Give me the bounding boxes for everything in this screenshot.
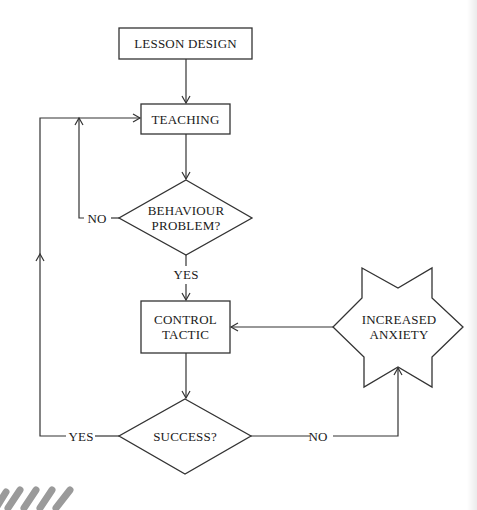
success-label: SUCCESS? xyxy=(153,429,217,444)
edge-success-yes-to-teaching: YES xyxy=(36,114,140,444)
behaviour-no-label: NO xyxy=(87,211,106,226)
page-edge-shadow xyxy=(467,0,477,510)
edge-anxiety-to-control xyxy=(231,323,333,331)
flowchart-canvas: LESSON DESIGN TEACHING BEHAVIOUR PROBLEM… xyxy=(0,0,477,510)
edge-behaviour-yes-to-control: YES xyxy=(173,255,198,300)
edge-lesson-to-teaching xyxy=(182,59,190,103)
behaviour-problem-label-line1: BEHAVIOUR xyxy=(148,203,225,218)
node-behaviour-problem: BEHAVIOUR PROBLEM? xyxy=(119,180,252,255)
decorative-stripes xyxy=(0,490,70,508)
teaching-label: TEACHING xyxy=(151,112,219,127)
node-control-tactic: CONTROL TACTIC xyxy=(141,301,230,353)
behaviour-yes-label: YES xyxy=(173,267,198,282)
node-success: SUCCESS? xyxy=(119,399,251,474)
success-yes-label: YES xyxy=(68,429,93,444)
increased-anxiety-label-line2: ANXIETY xyxy=(369,327,429,342)
behaviour-problem-label-line2: PROBLEM? xyxy=(152,218,221,233)
success-no-label: NO xyxy=(308,429,327,444)
node-teaching: TEACHING xyxy=(141,104,230,134)
increased-anxiety-label-line1: INCREASED xyxy=(362,312,437,327)
edge-teaching-to-behaviour xyxy=(182,134,190,179)
control-tactic-label-line2: TACTIC xyxy=(162,327,209,342)
edge-success-no-to-anxiety: NO xyxy=(251,368,402,444)
lesson-design-label: LESSON DESIGN xyxy=(134,36,237,51)
node-lesson-design: LESSON DESIGN xyxy=(119,28,252,59)
control-tactic-label-line1: CONTROL xyxy=(154,312,217,327)
edge-control-to-success xyxy=(182,353,190,398)
edge-behaviour-no-to-teaching: NO xyxy=(75,118,119,226)
